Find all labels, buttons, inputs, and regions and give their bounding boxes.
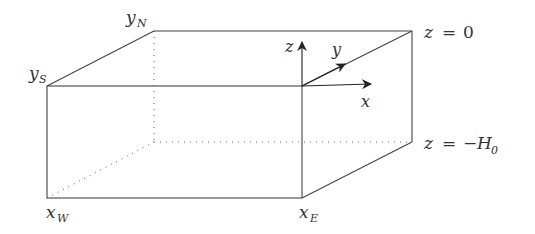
svg-text:x: x xyxy=(299,202,309,222)
svg-text:x: x xyxy=(46,202,56,222)
hidden-edges xyxy=(47,31,412,198)
x-axis-arrow xyxy=(302,84,371,86)
svg-text:y: y xyxy=(125,7,136,27)
svg-text:y: y xyxy=(28,63,39,83)
hidden-edge-bottom-left-depth xyxy=(47,142,154,198)
label-x-west: x W xyxy=(46,202,70,225)
svg-text:=: = xyxy=(442,133,456,153)
label-surface-bottom: z = − H 0 xyxy=(423,133,498,157)
z-axis-label: z xyxy=(284,37,294,56)
svg-text:=: = xyxy=(442,22,456,42)
svg-text:N: N xyxy=(136,17,147,30)
svg-text:E: E xyxy=(309,212,318,225)
svg-text:S: S xyxy=(39,73,47,86)
front-face xyxy=(47,86,302,198)
svg-text:0: 0 xyxy=(491,144,498,157)
label-x-east: x E xyxy=(299,202,318,225)
top-left-depth-edge xyxy=(47,31,154,86)
label-y-south: y S xyxy=(28,63,47,86)
svg-text:−: − xyxy=(463,133,477,153)
visible-edges xyxy=(47,31,412,198)
y-axis-label: y xyxy=(331,40,342,59)
svg-text:W: W xyxy=(57,212,70,225)
box-domain-diagram: z y x y N y S x W x E z = 0 z = − H 0 xyxy=(0,0,535,234)
y-axis-arrow xyxy=(302,64,345,86)
svg-text:z: z xyxy=(423,22,434,42)
label-y-north: y N xyxy=(125,7,147,30)
bottom-right-depth-edge xyxy=(302,142,412,198)
svg-text:z: z xyxy=(423,133,434,153)
svg-text:0: 0 xyxy=(463,22,474,42)
x-axis-label: x xyxy=(361,92,370,111)
label-surface-top: z = 0 xyxy=(423,22,474,42)
